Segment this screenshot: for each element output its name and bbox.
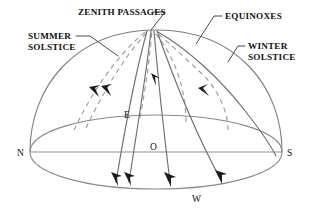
callout-label-equinoxes: EQUINOXES: [225, 11, 282, 22]
horizon-front-arc: [30, 152, 282, 189]
arrowhead-setting-summer: [111, 172, 122, 186]
leader-summer-solstice: [76, 36, 118, 56]
cardinal-label-east: E: [124, 110, 130, 120]
origin-label: O: [150, 142, 157, 152]
zenith-passage-rear-path-b: [140, 31, 152, 118]
arrowhead-setting-equinox: [215, 170, 227, 184]
zenith-passage-front-path-b: [154, 31, 170, 182]
arrowhead-rising-zenith-a: [101, 84, 112, 96]
cardinal-label-south: S: [287, 148, 292, 158]
arrowhead-setting-zenith-b: [164, 172, 176, 187]
zenith-passage-front-path-a: [129, 31, 151, 182]
rising-arrowheads-group: [89, 73, 209, 97]
arrowhead-rising-equinox: [198, 84, 209, 96]
zenith-passage-rear-path-a: [86, 31, 148, 128]
arrowhead-setting-zenith-a: [124, 172, 135, 186]
callout-label-summer-solstice: SUMMER SOLSTICE: [28, 31, 76, 52]
callout-leaders-group: [76, 12, 245, 62]
cardinal-label-north: N: [17, 148, 24, 158]
cardinal-label-west: W: [192, 194, 201, 204]
celestial-dome-diagram: ZENITH PASSAGES SUMMER SOLSTICE EQUINOXE…: [0, 0, 320, 213]
callout-label-winter-solstice: WINTER SOLSTICE: [248, 41, 296, 62]
callout-label-zenith-passages: ZENITH PASSAGES: [78, 7, 166, 18]
